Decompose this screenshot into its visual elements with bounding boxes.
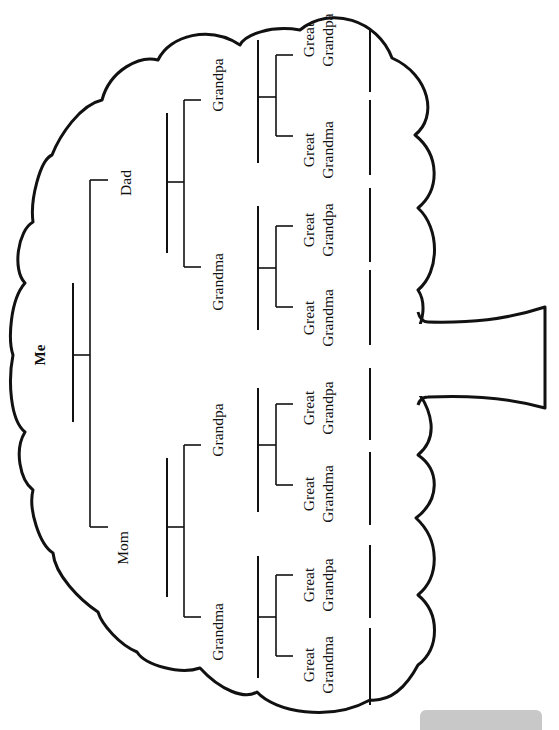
label-line2: Grandma	[318, 289, 337, 347]
label-great-grandma-1: Great Grandma	[299, 121, 337, 179]
tree-trunk-outline	[418, 307, 545, 408]
label-line1: Great	[299, 636, 318, 694]
label-line1: Great	[299, 13, 318, 66]
label-line1: Great	[299, 558, 318, 611]
label-line2: Grandpa	[318, 203, 337, 256]
label-line1: Great	[299, 121, 318, 179]
label-line2: Grandma	[318, 121, 337, 179]
label-great-grandpa-3: Great Grandpa	[299, 381, 337, 434]
label-line1: Great	[299, 381, 318, 434]
label-line1: Great	[299, 465, 318, 523]
label-great-grandma-3: Great Grandma	[299, 465, 337, 523]
label-line1: Great	[299, 203, 318, 256]
label-dad-grandpa: Grandpa	[209, 58, 226, 111]
label-me: Me	[32, 345, 49, 366]
label-dad-grandma: Grandma	[209, 253, 226, 311]
page-footer-tab	[420, 710, 542, 730]
label-line2: Grandpa	[318, 13, 337, 66]
label-great-grandma-4: Great Grandma	[299, 636, 337, 694]
label-line2: Grandpa	[318, 558, 337, 611]
label-great-grandpa-2: Great Grandpa	[299, 203, 337, 256]
label-great-grandpa-1: Great Grandpa	[299, 13, 337, 66]
label-line2: Grandma	[318, 636, 337, 694]
label-line2: Grandma	[318, 465, 337, 523]
label-line1: Great	[299, 289, 318, 347]
label-line2: Grandpa	[318, 381, 337, 434]
label-dad: Dad	[117, 170, 134, 196]
label-mom-grandpa: Grandpa	[209, 403, 226, 456]
label-great-grandpa-4: Great Grandpa	[299, 558, 337, 611]
label-great-grandma-2: Great Grandma	[299, 289, 337, 347]
label-mom-grandma: Grandma	[209, 603, 226, 661]
label-mom: Mom	[114, 531, 131, 565]
